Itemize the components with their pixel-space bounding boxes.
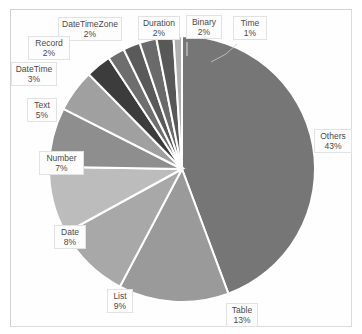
callout-table: Table 13% bbox=[226, 303, 258, 327]
callout-duration: Duration 2% bbox=[138, 16, 180, 40]
callout-number-percent: 7% bbox=[42, 163, 81, 173]
callout-list-percent: 9% bbox=[110, 301, 130, 311]
callout-datetime-percent: 3% bbox=[14, 74, 54, 84]
callout-list: List 9% bbox=[107, 289, 133, 313]
pie-chart-frame: DateTimeZone 2% Duration 2% Binary 2% Ti… bbox=[10, 9, 352, 327]
callout-datetime-name: DateTime bbox=[14, 64, 54, 74]
callout-others-name: Others bbox=[317, 131, 349, 141]
callout-duration-name: Duration bbox=[141, 18, 177, 28]
callout-number: Number 7% bbox=[39, 151, 84, 175]
callout-others: Others 43% bbox=[314, 129, 352, 153]
callout-text-name: Text bbox=[30, 100, 54, 110]
callout-time: Time 1% bbox=[233, 16, 267, 40]
callout-date-percent: 8% bbox=[57, 237, 83, 247]
callout-datetime: DateTime 3% bbox=[11, 62, 57, 86]
callout-table-percent: 13% bbox=[229, 315, 255, 325]
callout-duration-percent: 2% bbox=[141, 28, 177, 38]
callout-list-name: List bbox=[110, 291, 130, 301]
callout-record-percent: 2% bbox=[31, 48, 67, 58]
callout-binary: Binary 2% bbox=[186, 15, 222, 39]
callout-number-name: Number bbox=[42, 153, 81, 163]
callout-binary-name: Binary bbox=[189, 17, 219, 27]
callout-record-name: Record bbox=[31, 38, 67, 48]
callout-text-percent: 5% bbox=[30, 110, 54, 120]
pie-slices bbox=[49, 36, 315, 302]
callout-record: Record 2% bbox=[28, 36, 70, 60]
callout-time-name: Time bbox=[236, 18, 264, 28]
callout-binary-percent: 2% bbox=[189, 27, 219, 37]
callout-table-name: Table bbox=[229, 305, 255, 315]
callout-datetimezone-name: DateTimeZone bbox=[61, 19, 119, 29]
callout-date-name: Date bbox=[57, 227, 83, 237]
callout-time-percent: 1% bbox=[236, 28, 264, 38]
callout-others-percent: 43% bbox=[317, 141, 349, 151]
callout-date: Date 8% bbox=[54, 225, 86, 249]
callout-text: Text 5% bbox=[27, 98, 57, 122]
